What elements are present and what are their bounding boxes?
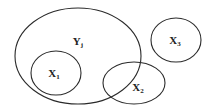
set-x3: X3 — [151, 18, 201, 62]
label-x1: X1 — [48, 67, 60, 81]
set-x2: X2 — [103, 62, 165, 104]
set-diagram: Yj X1 X2 X3 — [0, 0, 213, 112]
label-y: Yj — [73, 35, 83, 49]
label-x3: X3 — [169, 34, 181, 48]
set-x1: X1 — [31, 51, 81, 95]
ellipse-y — [15, 8, 141, 104]
label-x2: X2 — [132, 81, 144, 95]
set-y: Yj — [15, 8, 141, 104]
